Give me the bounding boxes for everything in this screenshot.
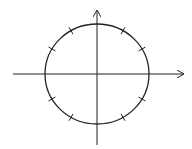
- diagram: [0, 0, 192, 149]
- unit-circle-diagram: [0, 0, 192, 149]
